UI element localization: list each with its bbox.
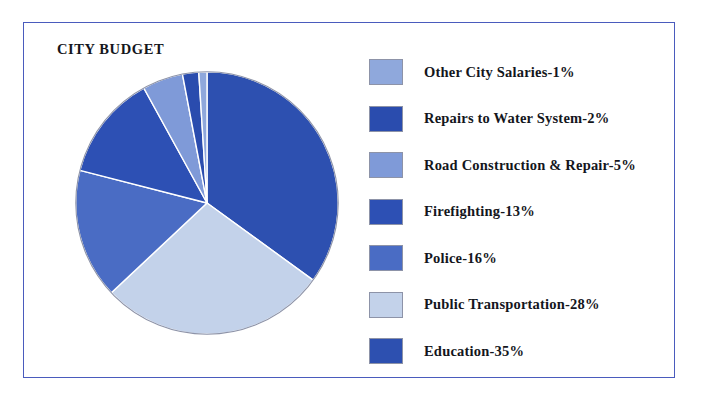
- legend: Other City Salaries-1% Repairs to Water …: [369, 49, 669, 375]
- legend-label: Police-16%: [424, 250, 497, 267]
- page-title: CITY BUDGET: [57, 41, 164, 58]
- pie-chart-svg: [73, 69, 341, 337]
- legend-swatch-firefighting: [369, 199, 403, 225]
- legend-swatch-education: [369, 338, 403, 364]
- legend-swatch-other-city-salaries: [369, 59, 403, 85]
- legend-item[interactable]: Education-35%: [369, 328, 669, 375]
- legend-swatch-road-construction-and-repair: [369, 152, 403, 178]
- legend-item[interactable]: Police-16%: [369, 235, 669, 282]
- legend-item[interactable]: Public Transportation-28%: [369, 282, 669, 329]
- legend-label: Public Transportation-28%: [424, 296, 600, 313]
- legend-item[interactable]: Firefighting-13%: [369, 189, 669, 236]
- legend-label: Road Construction & Repair-5%: [424, 157, 636, 174]
- legend-swatch-police: [369, 245, 403, 271]
- pie-chart: [73, 69, 341, 337]
- legend-item[interactable]: Other City Salaries-1%: [369, 49, 669, 96]
- legend-swatch-public-transportation: [369, 292, 403, 318]
- legend-label: Other City Salaries-1%: [424, 64, 575, 81]
- chart-frame: CITY BUDGET Other City Salaries-1% Repai…: [23, 22, 675, 378]
- pie-slices: [76, 72, 338, 334]
- legend-label: Firefighting-13%: [424, 203, 535, 220]
- legend-item[interactable]: Repairs to Water System-2%: [369, 96, 669, 143]
- legend-label: Repairs to Water System-2%: [424, 110, 610, 127]
- legend-item[interactable]: Road Construction & Repair-5%: [369, 142, 669, 189]
- legend-label: Education-35%: [424, 343, 524, 360]
- legend-swatch-repairs-to-water-system: [369, 106, 403, 132]
